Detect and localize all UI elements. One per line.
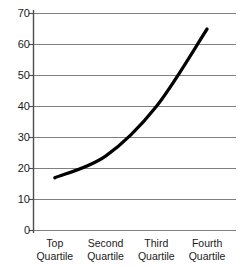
- x-tick-label-line2: Quartile: [176, 250, 238, 263]
- line-chart: 010203040506070 TopQuartileSecondQuartil…: [0, 0, 246, 268]
- x-tick-label-3: FourthQuartile: [176, 237, 238, 262]
- x-tick-label-line1: Fourth: [176, 237, 238, 250]
- x-axis-tick-labels: TopQuartileSecondQuartileThirdQuartileFo…: [0, 0, 246, 268]
